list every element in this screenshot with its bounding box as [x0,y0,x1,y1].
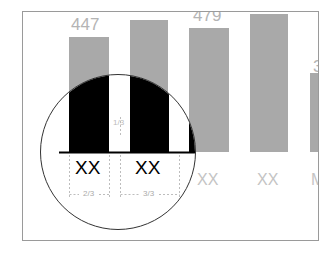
highlight-bar-3 [189,75,196,153]
magnifier-detail [41,75,196,230]
gap-label: 1/3 [113,119,124,127]
x-label-5: M [311,172,319,188]
highlight-bar-2 [130,75,169,153]
value-label-5: 3 [313,58,319,75]
value-label-1: 447 [71,16,99,33]
magnifier-label-1: XX [75,158,100,177]
highlight-bar-1 [69,75,109,153]
magnifier-callout: XX XX 1/3 2/3 3/3 [40,74,196,230]
spacing-label: 3/3 [143,190,154,198]
bar-4 [250,14,288,152]
value-label-3: 479 [193,11,221,24]
x-label-3: XX [197,172,218,188]
magnifier-label-2: XX [135,158,160,177]
x-label-4: XX [257,172,278,188]
bar-width-label: 2/3 [83,190,94,198]
bar-5 [310,73,319,152]
bar-3 [189,28,229,152]
